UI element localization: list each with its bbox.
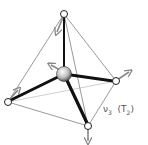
mode-label: ν3 (T2): [103, 104, 134, 116]
atom-left: [5, 99, 12, 106]
atom-right: [113, 78, 120, 85]
edge-left-right: [8, 81, 116, 102]
edge-left-bottom: [8, 102, 88, 126]
atom-top: [61, 11, 68, 18]
atom-bottom: [85, 123, 92, 130]
symmetry-open: (T: [118, 104, 127, 114]
atom-center: [57, 67, 72, 82]
mode-index: 3: [108, 109, 112, 116]
symmetry-close: ): [130, 104, 134, 114]
edge-top-right: [64, 14, 116, 81]
tetrahedron-diagram: [0, 0, 148, 145]
bond-bottom: [64, 74, 87, 123]
